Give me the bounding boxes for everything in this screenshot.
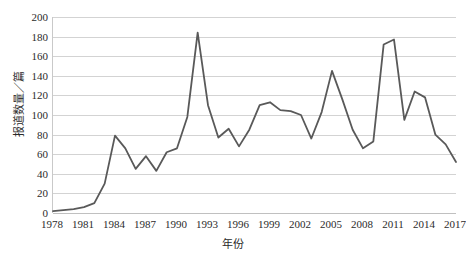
y-tick-label: 80 xyxy=(37,130,48,140)
x-tick-label: 1981 xyxy=(72,218,94,230)
y-tick-label: 0 xyxy=(43,208,49,218)
y-tick-label: 140 xyxy=(32,71,49,81)
x-axis-title: 年份 xyxy=(0,235,465,251)
x-tick-label: 1978 xyxy=(41,218,63,230)
y-tick-label: 160 xyxy=(32,51,49,61)
x-tick-label: 1993 xyxy=(196,218,218,230)
x-axis-tick-labels: 1978198119841987199019931996199920022005… xyxy=(52,218,455,234)
x-tick-label: 2017 xyxy=(444,218,466,230)
x-tick-label: 2008 xyxy=(351,218,373,230)
x-tick-label: 1996 xyxy=(227,218,249,230)
x-tick-label: 1990 xyxy=(165,218,187,230)
y-tick-label: 40 xyxy=(37,169,48,179)
x-tick-label: 1999 xyxy=(258,218,280,230)
x-tick-label: 2011 xyxy=(382,218,404,230)
x-tick-label: 1984 xyxy=(103,218,125,230)
y-tick-label: 180 xyxy=(32,32,49,42)
plot-area xyxy=(52,17,456,213)
x-tick-label: 2005 xyxy=(320,218,342,230)
x-tick-label: 2002 xyxy=(289,218,311,230)
y-tick-label: 60 xyxy=(37,149,48,159)
y-tick-label: 20 xyxy=(37,188,48,198)
y-tick-label: 100 xyxy=(32,110,49,120)
x-tick-label: 2014 xyxy=(413,218,435,230)
y-tick-label: 120 xyxy=(32,90,49,100)
x-tick-label: 1987 xyxy=(134,218,156,230)
series-line xyxy=(53,17,456,213)
gridline-0 xyxy=(53,213,456,214)
y-tick-label: 200 xyxy=(32,12,49,22)
